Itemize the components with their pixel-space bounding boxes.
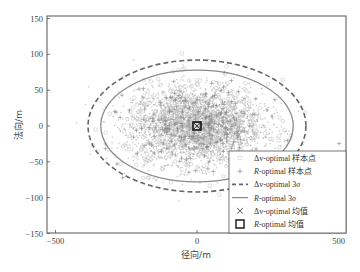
legend-label: R-optimal 均值 [253, 219, 304, 229]
y-tick-label: −150 [25, 229, 43, 239]
legend-label: Δv-optimal 3σ [254, 180, 301, 189]
y-tick-label: −50 [30, 157, 43, 167]
x-axis-label: 径向/m [181, 249, 211, 260]
y-axis: 150100500−50−100−150 [25, 14, 50, 239]
legend-label: R-optimal 样本点 [253, 166, 312, 176]
scatter-chart: −5000500 150100500−50−100−150 径向/m 法向/m … [0, 0, 360, 272]
legend: Δv-optimal 样本点R-optimal 样本点Δv-optimal 3σ… [229, 151, 346, 233]
y-axis-label: 法向/m [13, 110, 24, 140]
y-tick-label: 0 [39, 121, 43, 131]
x-tick-label: −500 [47, 236, 65, 246]
y-tick-label: 50 [35, 85, 44, 95]
legend-label: Δv-optimal 均值 [254, 206, 308, 216]
y-tick-label: 100 [30, 49, 43, 59]
x-tick-label: 500 [332, 236, 345, 246]
y-tick-label: −100 [25, 193, 43, 203]
x-tick-label: 0 [195, 236, 199, 246]
legend-label: R-optimal 3σ [253, 194, 297, 203]
legend-label: Δv-optimal 样本点 [254, 153, 316, 163]
y-tick-label: 150 [30, 14, 43, 24]
